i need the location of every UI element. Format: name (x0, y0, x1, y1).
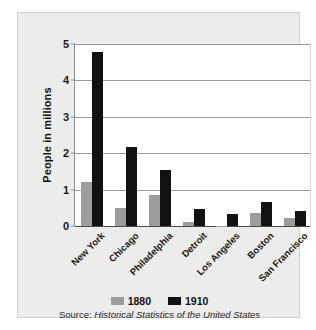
bar-los-angeles-1910 (227, 214, 238, 226)
y-tick-label-5: 5 (63, 38, 69, 50)
x-label-detroit: Detroit (179, 230, 208, 259)
bar-group (149, 44, 171, 226)
legend-item-1910: 1910 (168, 295, 208, 307)
source-prefix: Source: (59, 309, 94, 320)
x-label-boston: Boston (245, 230, 276, 261)
bar-detroit-1910 (194, 209, 205, 226)
y-tick-label-0: 0 (63, 220, 69, 232)
y-tick-mark-5 (71, 44, 75, 45)
bar-detroit-1880 (183, 222, 194, 226)
bar-group (250, 44, 272, 226)
y-tick-mark-4 (71, 80, 75, 81)
y-axis-title: People in millions (39, 44, 55, 226)
bar-philadelphia-1910 (160, 170, 171, 226)
y-axis-title-text: People in millions (41, 87, 53, 182)
y-tick-mark-2 (71, 153, 75, 154)
y-tick-label-3: 3 (63, 111, 69, 123)
legend-item-1880: 1880 (111, 295, 151, 307)
bar-group (81, 44, 103, 226)
y-tick-label-4: 4 (63, 74, 69, 86)
x-label-chicago: Chicago (106, 230, 140, 264)
x-axis-category-labels: New YorkChicagoPhiladelphiaDetroitLos An… (74, 227, 311, 289)
legend-label-1880: 1880 (128, 295, 151, 307)
bar-new-york-1880 (81, 182, 92, 226)
bar-series-container (76, 44, 310, 226)
bar-group (284, 44, 306, 226)
source-title: Historical Statistics of the United Stat… (94, 309, 260, 320)
legend-swatch-1880-icon (111, 297, 124, 305)
bar-philadelphia-1880 (149, 195, 160, 226)
bar-boston-1880 (250, 213, 261, 226)
x-label-new-york: New York (69, 230, 107, 268)
bar-group (115, 44, 137, 226)
bar-boston-1910 (261, 202, 272, 226)
bar-group (216, 44, 238, 226)
plot-area: 012345 (74, 44, 311, 226)
y-tick-mark-3 (71, 116, 75, 117)
bar-new-york-1910 (92, 52, 103, 226)
y-tick-label-2: 2 (63, 147, 69, 159)
chart-legend: 1880 1910 (18, 295, 301, 307)
bar-san-francisco-1880 (284, 218, 295, 226)
legend-swatch-1910-icon (168, 297, 181, 305)
legend-label-1910: 1910 (185, 295, 208, 307)
bar-san-francisco-1910 (295, 211, 306, 226)
chart-card: People in millions 012345 New YorkChicag… (17, 12, 300, 318)
bar-chicago-1910 (126, 147, 137, 226)
y-tick-mark-1 (71, 189, 75, 190)
chart-figure: People in millions 012345 New YorkChicag… (0, 0, 316, 330)
bar-group (183, 44, 205, 226)
y-tick-label-1: 1 (63, 184, 69, 196)
source-note: Source: Historical Statistics of the Uni… (18, 309, 301, 320)
bar-chicago-1880 (115, 208, 126, 226)
